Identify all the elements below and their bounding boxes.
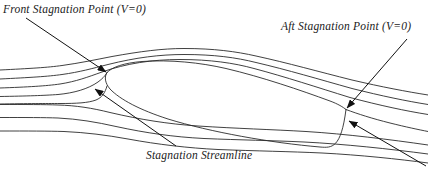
- streamline-body-lower-surface: [105, 73, 346, 148]
- aft-stagnation-point-label: Aft Stagnation Point (V=0): [281, 20, 411, 32]
- front-stagnation-point-label: Front Stagnation Point (V=0): [3, 3, 146, 15]
- streamline-upper-4: [0, 55, 428, 105]
- front-stagnation-leader-icon: [26, 18, 106, 72]
- aft-stagnation-leader-icon: [347, 39, 407, 108]
- stagnation-streamline-label: Stagnation Streamline: [146, 149, 252, 161]
- streamlines-group: [0, 49, 428, 164]
- streamline-upper-3: [0, 60, 428, 115]
- flow-diagram-figure: Front Stagnation Point (V=0) Aft Stagnat…: [0, 0, 428, 175]
